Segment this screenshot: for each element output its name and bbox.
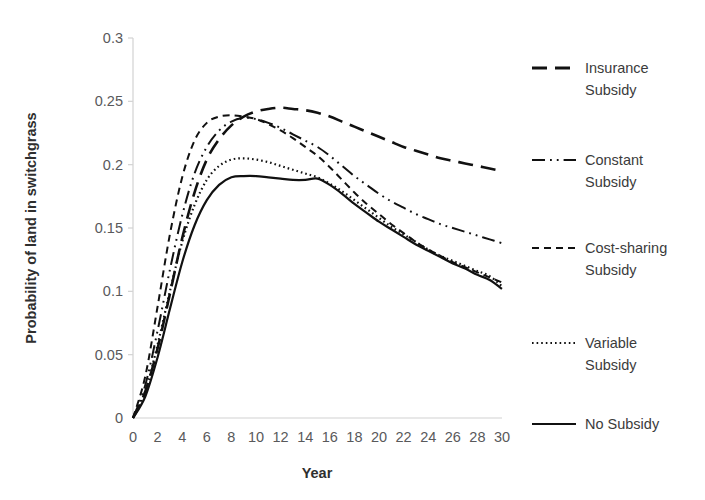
x-tick-label: 24 bbox=[420, 429, 436, 445]
series-lines bbox=[133, 108, 502, 418]
y-tick-label: 0.25 bbox=[95, 93, 123, 109]
plot-area: 00.050.10.150.20.250.3 02468101214161820… bbox=[95, 30, 510, 445]
series-line bbox=[133, 118, 502, 418]
y-tick-label: 0.1 bbox=[103, 283, 123, 299]
y-axis-ticks bbox=[128, 38, 133, 355]
x-tick-label: 8 bbox=[227, 429, 235, 445]
legend-label-line2: Subsidy bbox=[585, 82, 637, 98]
legend-label-line2: Subsidy bbox=[585, 357, 637, 373]
y-axis-tick-labels: 00.050.10.150.20.250.3 bbox=[95, 30, 123, 426]
y-axis-title: Probability of land in switchgrass bbox=[23, 112, 39, 343]
y-tick-label: 0.05 bbox=[95, 347, 123, 363]
legend-label: No Subsidy bbox=[585, 416, 660, 432]
legend-label: Constant bbox=[585, 152, 643, 168]
x-tick-label: 6 bbox=[203, 429, 211, 445]
y-tick-label: 0.2 bbox=[103, 157, 123, 173]
x-tick-label: 20 bbox=[371, 429, 387, 445]
y-tick-label: 0.3 bbox=[103, 30, 123, 46]
legend-label: Cost-sharing bbox=[585, 240, 667, 256]
x-tick-label: 26 bbox=[445, 429, 461, 445]
x-tick-label: 16 bbox=[322, 429, 338, 445]
line-chart: 00.050.10.150.20.250.3 02468101214161820… bbox=[0, 0, 705, 500]
x-tick-label: 22 bbox=[396, 429, 412, 445]
legend-label-line2: Subsidy bbox=[585, 174, 637, 190]
y-tick-label: 0.15 bbox=[95, 220, 123, 236]
x-tick-label: 30 bbox=[494, 429, 510, 445]
legend-label-line2: Subsidy bbox=[585, 262, 637, 278]
x-tick-label: 4 bbox=[178, 429, 186, 445]
chart-legend: InsuranceSubsidyConstantSubsidyCost-shar… bbox=[532, 60, 667, 432]
x-axis-tick-labels: 024681012141618202224262830 bbox=[129, 429, 510, 445]
x-tick-label: 0 bbox=[129, 429, 137, 445]
x-tick-label: 2 bbox=[154, 429, 162, 445]
series-line bbox=[133, 158, 502, 418]
legend-label: Insurance bbox=[585, 60, 649, 76]
chart-figure: 00.050.10.150.20.250.3 02468101214161820… bbox=[0, 0, 705, 500]
x-tick-label: 18 bbox=[346, 429, 362, 445]
x-tick-label: 12 bbox=[273, 429, 289, 445]
x-tick-label: 28 bbox=[469, 429, 485, 445]
x-axis-title: Year bbox=[302, 465, 333, 481]
x-tick-label: 14 bbox=[297, 429, 313, 445]
x-tick-label: 10 bbox=[248, 429, 264, 445]
legend-label: Variable bbox=[585, 335, 637, 351]
y-tick-label: 0 bbox=[115, 410, 123, 426]
